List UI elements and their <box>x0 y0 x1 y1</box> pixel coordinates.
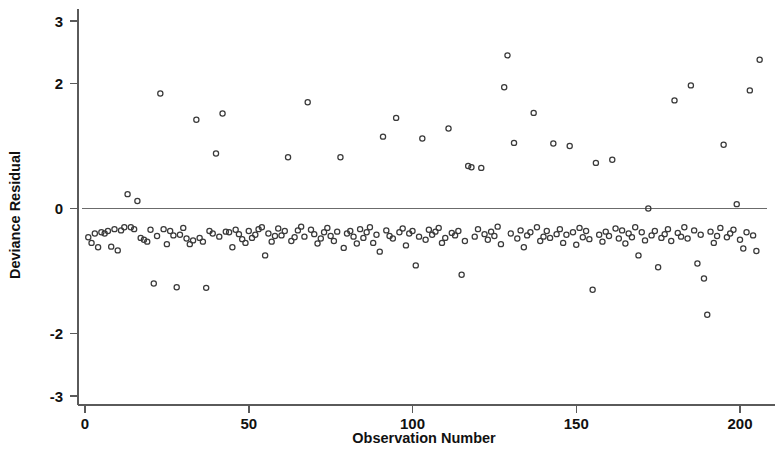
data-point <box>338 155 343 160</box>
data-point <box>623 241 628 246</box>
data-point <box>426 227 431 232</box>
data-point <box>456 228 461 233</box>
data-point <box>443 235 448 240</box>
data-point <box>511 140 516 145</box>
data-point <box>620 228 625 233</box>
data-point <box>325 225 330 230</box>
data-point <box>177 232 182 237</box>
data-point <box>462 238 467 243</box>
data-point <box>161 227 166 232</box>
x-tick-label: 50 <box>240 415 257 432</box>
data-point <box>636 253 641 258</box>
data-point <box>269 239 274 244</box>
data-point <box>213 151 218 156</box>
data-point <box>292 235 297 240</box>
data-point <box>243 240 248 245</box>
data-point <box>200 239 205 244</box>
data-point <box>354 241 359 246</box>
data-point <box>528 230 533 235</box>
data-point <box>341 245 346 250</box>
data-point <box>436 225 441 230</box>
data-point <box>190 238 195 243</box>
data-point <box>665 227 670 232</box>
data-point <box>158 91 163 96</box>
y-tick-label: -3 <box>50 388 63 405</box>
data-point <box>544 228 549 233</box>
data-point <box>711 240 716 245</box>
data-point <box>692 228 697 233</box>
y-axis-title: Deviance Residual <box>7 151 23 279</box>
data-point <box>479 165 484 170</box>
data-point <box>705 312 710 317</box>
data-point <box>125 192 130 197</box>
data-point <box>757 57 762 62</box>
data-point <box>554 232 559 237</box>
data-point <box>570 230 575 235</box>
data-point <box>580 235 585 240</box>
data-point <box>184 236 189 241</box>
data-point <box>351 234 356 239</box>
data-point <box>741 246 746 251</box>
data-point <box>551 141 556 146</box>
x-tick-label: 150 <box>564 415 589 432</box>
data-point <box>734 202 739 207</box>
data-point <box>439 240 444 245</box>
data-point <box>413 263 418 268</box>
data-point <box>597 232 602 237</box>
data-point <box>485 237 490 242</box>
data-point <box>541 234 546 239</box>
data-point <box>714 233 719 238</box>
data-point <box>272 233 277 238</box>
data-point <box>505 53 510 58</box>
y-tick-label: -2 <box>50 325 63 342</box>
data-point <box>276 226 281 231</box>
data-point <box>335 229 340 234</box>
data-point <box>285 155 290 160</box>
data-point <box>610 157 615 162</box>
data-point <box>459 272 464 277</box>
data-point <box>472 234 477 239</box>
data-point <box>751 233 756 238</box>
data-point <box>744 230 749 235</box>
data-point <box>194 117 199 122</box>
data-point <box>109 244 114 249</box>
data-point <box>482 232 487 237</box>
data-point <box>246 228 251 233</box>
data-point <box>328 233 333 238</box>
data-point <box>312 232 317 237</box>
data-point <box>315 241 320 246</box>
data-point <box>367 225 372 230</box>
data-point <box>377 249 382 254</box>
data-point <box>531 110 536 115</box>
data-point <box>469 165 474 170</box>
scatter-plot-canvas: 320-2-3 050100150200 Observation Number … <box>0 0 783 451</box>
data-point <box>518 228 523 233</box>
data-point <box>420 136 425 141</box>
data-point <box>171 233 176 238</box>
data-point <box>423 237 428 242</box>
data-point <box>652 228 657 233</box>
data-point <box>394 115 399 120</box>
data-point <box>698 232 703 237</box>
data-point <box>364 230 369 235</box>
data-point <box>266 231 271 236</box>
data-point <box>492 233 497 238</box>
data-point <box>112 227 117 232</box>
axis-group <box>70 9 775 413</box>
data-point <box>358 227 363 232</box>
data-point <box>534 225 539 230</box>
data-point <box>508 231 513 236</box>
data-point <box>299 224 304 229</box>
data-point <box>122 225 127 230</box>
data-point <box>639 230 644 235</box>
data-point <box>86 235 91 240</box>
data-point <box>737 237 742 242</box>
data-point <box>656 265 661 270</box>
data-point <box>561 240 566 245</box>
data-point <box>331 238 336 243</box>
data-point <box>384 228 389 233</box>
data-point <box>371 240 376 245</box>
y-tick-label: 3 <box>55 13 63 30</box>
data-point <box>174 285 179 290</box>
data-point <box>164 242 169 247</box>
